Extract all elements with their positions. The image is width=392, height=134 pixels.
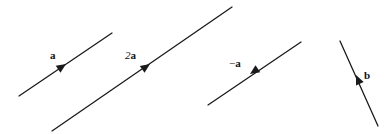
vector-arrowhead-2a <box>140 64 150 73</box>
vector-shaft--a <box>208 42 301 105</box>
vector-label-a: a <box>50 50 56 61</box>
vector-label-2a: 2a <box>125 50 136 61</box>
vector-arrowhead--a <box>250 65 260 74</box>
vector-label--a: −a <box>229 58 241 69</box>
vector-lines-layer <box>0 0 392 134</box>
vector-label-b: b <box>364 70 370 81</box>
vector-diagram-canvas: a2a−ab <box>0 0 392 134</box>
vector-arrowhead-a <box>56 64 66 73</box>
